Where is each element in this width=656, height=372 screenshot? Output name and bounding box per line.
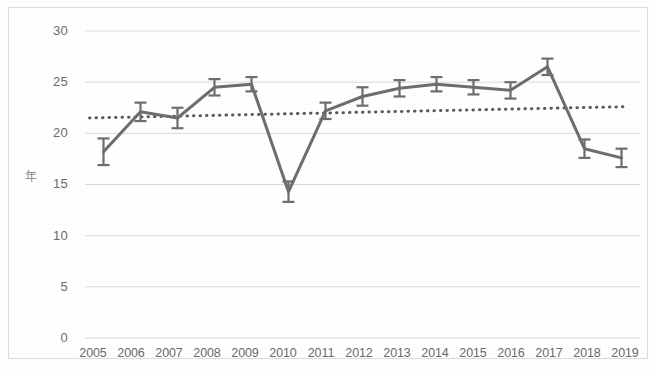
error-bars xyxy=(98,59,628,202)
plot-area xyxy=(0,0,656,372)
chart-container: 30 25 20 15 10 5 0 年 2005 2006 2007 2008… xyxy=(0,0,656,372)
gridlines xyxy=(85,31,640,338)
